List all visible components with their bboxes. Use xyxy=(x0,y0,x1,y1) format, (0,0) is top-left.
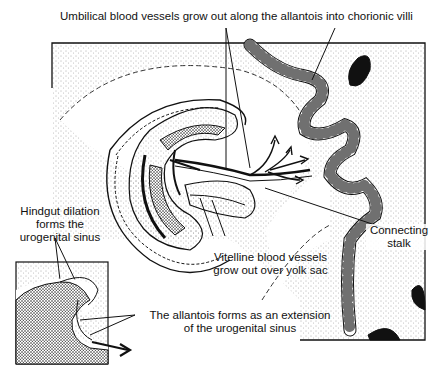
vitelline-label-line2: grow out over yolk sac xyxy=(208,264,333,277)
umbilical-vessels-label: Umbilical blood vessels grow out along t… xyxy=(60,10,413,23)
allantois-label: The allantois forms as an extension of t… xyxy=(140,309,340,335)
inset-hindgut xyxy=(16,262,130,364)
connecting-stalk-label: Connecting stalk xyxy=(366,224,432,250)
hindgut-label-line3: urogenital sinus xyxy=(4,231,116,244)
allantois-label-line2: of the urogenital sinus xyxy=(140,322,340,335)
diagram-canvas: Umbilical blood vessels grow out along t… xyxy=(0,0,436,370)
hindgut-label-line2: forms the xyxy=(4,218,116,231)
hindgut-label: Hindgut dilation forms the urogenital si… xyxy=(4,205,116,244)
allantois-label-line1: The allantois forms as an extension xyxy=(140,309,340,322)
vitelline-label-line1: Vitelline blood vessels xyxy=(208,251,333,264)
vitelline-vessels-label: Vitelline blood vessels grow out over yo… xyxy=(208,251,333,277)
hindgut-label-line1: Hindgut dilation xyxy=(4,205,116,218)
stalk-label-line1: Connecting xyxy=(366,224,432,237)
stalk-label-line2: stalk xyxy=(366,237,432,250)
